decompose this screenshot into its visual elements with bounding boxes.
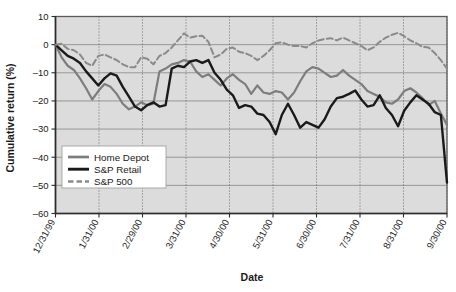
y-tick-label: –10	[33, 67, 49, 78]
y-tick-label: –60	[33, 208, 49, 219]
y-tick-label: 10	[38, 11, 49, 22]
y-tick-label: –20	[33, 95, 49, 106]
cumulative-return-chart: 100–10–20–30–40–50–60 12/31/991/31/002/2…	[0, 0, 456, 292]
y-tick-label: –40	[33, 152, 49, 163]
legend-label: Home Depot	[94, 152, 149, 163]
legend-label: S&P Retail	[94, 164, 141, 175]
y-tick-label: –50	[33, 180, 49, 191]
y-axis-title: Cumulative return (%)	[4, 63, 16, 172]
y-tick-label: 0	[43, 39, 48, 50]
chart-canvas: 100–10–20–30–40–50–60 12/31/991/31/002/2…	[0, 0, 456, 292]
x-axis-title: Date	[241, 271, 264, 283]
chart-legend: Home DepotS&P RetailS&P 500	[62, 146, 166, 188]
legend-label: S&P 500	[94, 176, 133, 187]
y-tick-label: –30	[33, 123, 49, 134]
